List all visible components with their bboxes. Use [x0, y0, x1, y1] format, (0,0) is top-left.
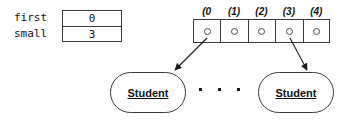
pointer-arrows: [0, 0, 363, 121]
diagram-canvas: first 0 small 3 (0 (1) (2) (3) (4): [0, 0, 363, 121]
pointer-arrow-0: [175, 38, 207, 70]
pointer-arrow-3: [290, 38, 307, 70]
